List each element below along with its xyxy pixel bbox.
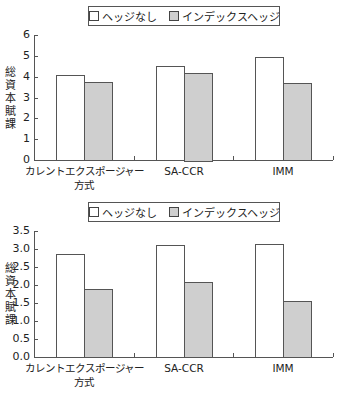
plot-area: 0123456総資本賦課カレントエクスポージャー方式SA-CCRIMM xyxy=(0,0,338,195)
x-tick xyxy=(333,353,334,357)
bar-index-hedge xyxy=(84,289,113,358)
bar-index-hedge xyxy=(184,282,213,358)
y-tick xyxy=(34,77,38,78)
bar-no-hedge xyxy=(56,75,85,161)
x-tick xyxy=(134,156,135,160)
y-tick xyxy=(34,321,38,322)
y-axis-title: 総資本賦課 xyxy=(4,262,16,327)
x-tick xyxy=(333,156,334,160)
y-tick xyxy=(34,139,38,140)
y-tick xyxy=(34,303,38,304)
y-tick xyxy=(34,56,38,57)
bar-index-hedge xyxy=(84,82,113,161)
y-tick xyxy=(34,339,38,340)
y-tick xyxy=(34,118,38,119)
y-tick xyxy=(34,35,38,36)
y-tick xyxy=(34,160,38,161)
bar-no-hedge xyxy=(156,245,185,358)
y-tick xyxy=(34,267,38,268)
y-tick-label: 3.5 xyxy=(0,225,30,237)
x-tick xyxy=(233,156,234,160)
y-tick xyxy=(34,357,38,358)
x-category-label: IMM xyxy=(223,361,338,375)
y-tick-label: 6 xyxy=(0,29,30,41)
y-axis-title: 総資本賦課 xyxy=(4,66,16,131)
plot-area: 0.00.51.01.52.02.53.03.5総資本賦課カレントエクスポージャ… xyxy=(0,195,338,393)
y-tick xyxy=(34,285,38,286)
y-tick-label: 0.5 xyxy=(0,333,30,345)
y-tick xyxy=(34,249,38,250)
bar-no-hedge xyxy=(255,57,284,161)
y-tick-label: 3.0 xyxy=(0,243,30,255)
truncated-caption xyxy=(10,388,330,393)
bar-index-hedge xyxy=(184,73,213,162)
x-category-label: IMM xyxy=(223,164,338,178)
bar-no-hedge xyxy=(156,66,185,161)
y-tick xyxy=(34,231,38,232)
y-tick xyxy=(34,98,38,99)
bar-no-hedge xyxy=(255,244,284,358)
y-tick-label: 1 xyxy=(0,133,30,145)
chart-capital-charge-2: ヘッジなし インデックスヘッジ 0.00.51.01.52.02.53.03.5… xyxy=(0,195,338,393)
y-tick-label: 5 xyxy=(0,50,30,62)
bar-no-hedge xyxy=(56,254,85,358)
bar-index-hedge xyxy=(283,301,312,358)
x-tick xyxy=(233,353,234,357)
bar-index-hedge xyxy=(283,83,312,161)
x-tick xyxy=(134,353,135,357)
chart-capital-charge-1: ヘッジなし インデックスヘッジ 0123456総資本賦課カレントエクスポージャー… xyxy=(0,0,338,195)
